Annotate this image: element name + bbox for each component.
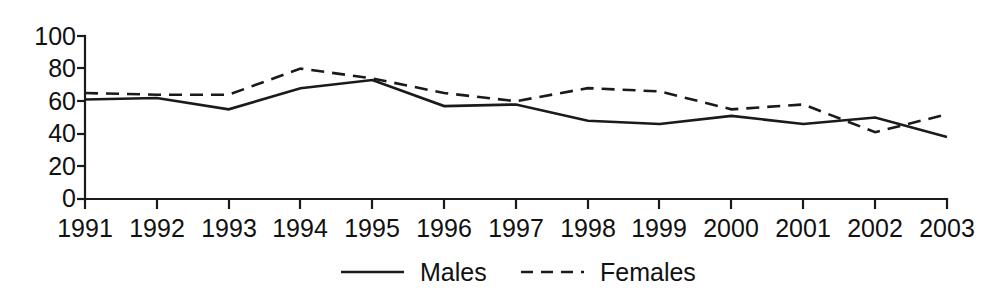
series-line-males — [85, 80, 947, 137]
y-tick-label-20: 20 — [48, 152, 76, 180]
x-tick-label-1999: 1999 — [631, 214, 687, 242]
y-tick-label-60: 60 — [48, 87, 76, 115]
y-tick-label-0: 0 — [62, 184, 76, 212]
x-tick-label-2000: 2000 — [703, 214, 759, 242]
x-tick-label-2001: 2001 — [775, 214, 831, 242]
y-axis-ticks — [77, 36, 85, 199]
x-axis-ticks — [85, 199, 947, 209]
chart-legend: Males Females — [341, 258, 696, 286]
y-tick-label-100: 100 — [34, 22, 76, 50]
line-chart: 100 80 60 40 20 0 — [0, 0, 990, 293]
x-tick-label-1995: 1995 — [344, 214, 400, 242]
x-tick-label-1994: 1994 — [272, 214, 328, 242]
legend-label-males: Males — [420, 258, 487, 286]
chart-container: 100 80 60 40 20 0 — [0, 0, 990, 293]
x-tick-label-2002: 2002 — [847, 214, 903, 242]
x-tick-label-1997: 1997 — [488, 214, 544, 242]
x-tick-label-1998: 1998 — [560, 214, 616, 242]
legend-label-females: Females — [600, 258, 696, 286]
x-axis-tick-labels: 1991 1992 1993 1994 1995 1996 1997 1998 … — [57, 214, 975, 242]
y-axis-tick-labels: 100 80 60 40 20 0 — [34, 22, 76, 212]
x-tick-label-2003: 2003 — [919, 214, 975, 242]
x-tick-label-1991: 1991 — [57, 214, 113, 242]
y-tick-label-40: 40 — [48, 119, 76, 147]
x-tick-label-1992: 1992 — [129, 214, 185, 242]
x-tick-label-1996: 1996 — [416, 214, 472, 242]
x-tick-label-1993: 1993 — [201, 214, 257, 242]
y-tick-label-80: 80 — [48, 54, 76, 82]
